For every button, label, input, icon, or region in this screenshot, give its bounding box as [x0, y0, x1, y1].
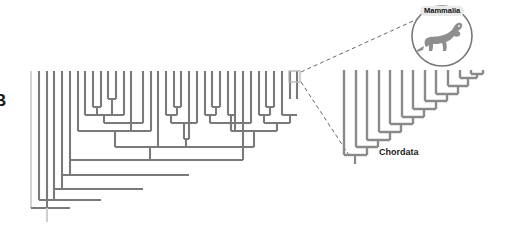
deep-clade-branch — [70, 160, 243, 175]
clade-branch — [264, 123, 290, 131]
cladogram-canvas — [0, 0, 508, 231]
dashed-callout-lines — [301, 82, 349, 155]
deep-clade-branch — [62, 175, 189, 189]
clade-branch — [205, 115, 216, 123]
main-tree-tips — [39, 71, 297, 200]
clade-branch — [171, 123, 197, 139]
deep-clade-branch — [54, 189, 143, 200]
clade-branch — [231, 131, 277, 147]
clade-branch — [174, 107, 181, 115]
clade-branch — [282, 115, 297, 123]
clade-branch — [115, 147, 186, 160]
clade-branch — [259, 115, 270, 123]
clade-branch — [212, 107, 220, 115]
clade-branch — [184, 139, 189, 147]
clade-branch — [266, 107, 274, 115]
deep-clade-branch — [39, 200, 101, 208]
clade-branch — [166, 115, 177, 123]
dashed-callout-lines — [301, 16, 424, 72]
inset-tree-tips — [344, 70, 483, 155]
clade-branch — [85, 115, 124, 123]
clade-branch — [78, 131, 151, 147]
clade-branch — [93, 107, 101, 115]
chordata-label: Chordata — [379, 148, 419, 157]
mammalia-label: Mammalia — [420, 6, 464, 16]
phylogeny-figure: B — [0, 0, 508, 231]
clade-branch — [104, 123, 143, 131]
clade-branch — [108, 99, 116, 115]
clade-branch — [210, 123, 251, 131]
main-tree-group — [31, 71, 297, 222]
